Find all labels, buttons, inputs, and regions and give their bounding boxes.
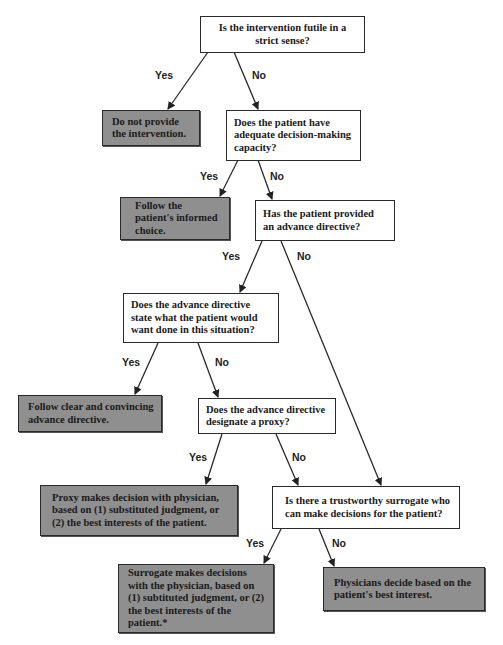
edge-label-q2-yes: Yes — [200, 170, 218, 182]
node-text: Follow the patient's informed choice. — [135, 200, 222, 238]
edge-q3-q4 — [240, 241, 262, 292]
edge-label-q3-no: No — [297, 250, 311, 262]
node-text: Has the patient provided an advance dire… — [263, 208, 387, 233]
edge-label-q2-no: No — [270, 170, 284, 182]
node-text: Does the advance directive state what th… — [131, 299, 271, 337]
outcome-informed-choice: Follow the patient's informed choice. — [120, 197, 230, 240]
node-text: Does the patient have adequate decision-… — [234, 117, 353, 155]
node-text: Does the advance directive designate a p… — [206, 404, 328, 429]
edge-q4-a4 — [135, 343, 158, 394]
edge-label-q4-no: No — [215, 356, 229, 368]
node-text: Is there a trustworthy surrogate who can… — [285, 495, 452, 520]
edge-q3-q6 — [281, 241, 381, 485]
edge-label-q6-no: No — [332, 537, 346, 549]
edge-q1-a1 — [168, 52, 208, 109]
question-trustworthy-surrogate: Is there a trustworthy surrogate who can… — [272, 486, 460, 529]
outcome-physicians-decide: Physicians decide based on the patient's… — [323, 567, 485, 611]
outcome-do-not-provide: Do not provide the intervention. — [102, 110, 200, 146]
edge-label-q5-no: No — [292, 451, 306, 463]
edge-label-q1-no: No — [252, 69, 266, 81]
node-text: Physicians decide based on the patient's… — [334, 577, 477, 602]
edge-q2-a2 — [220, 160, 238, 196]
edge-label-q1-yes: Yes — [155, 69, 173, 81]
question-decision-capacity: Does the patient have adequate decision-… — [226, 110, 361, 161]
outcome-surrogate-decides: Surrogate makes decisions with the physi… — [118, 564, 274, 633]
flowchart: Yes No Yes No Yes No Yes No Yes No Yes N… — [0, 0, 503, 645]
node-text: Do not provide the intervention. — [112, 116, 192, 141]
question-directive-proxy: Does the advance directive designate a p… — [198, 398, 336, 434]
outcome-proxy-decides: Proxy makes decision with physician, bas… — [40, 485, 238, 536]
node-text: Proxy makes decision with physician, bas… — [48, 492, 230, 530]
edge-q6-a6yes — [264, 529, 281, 563]
node-text: Is the intervention futile in a strict s… — [208, 22, 357, 47]
outcome-follow-directive: Follow clear and convincing advance dire… — [18, 395, 162, 432]
edge-q4-q5 — [198, 343, 218, 397]
edge-label-q6-yes: Yes — [246, 537, 264, 549]
question-directive-states-wishes: Does the advance directive state what th… — [123, 293, 279, 343]
edge-label-q3-yes: Yes — [222, 250, 240, 262]
edge-label-q4-yes: Yes — [122, 356, 140, 368]
edge-q5-a5 — [206, 434, 222, 484]
question-futile-intervention: Is the intervention futile in a strict s… — [200, 16, 365, 53]
edge-label-q5-yes: Yes — [189, 451, 207, 463]
node-text: Surrogate makes decisions with the physi… — [128, 567, 266, 630]
question-advance-directive: Has the patient provided an advance dire… — [255, 200, 395, 241]
node-text: Follow clear and convincing advance dire… — [28, 401, 154, 426]
